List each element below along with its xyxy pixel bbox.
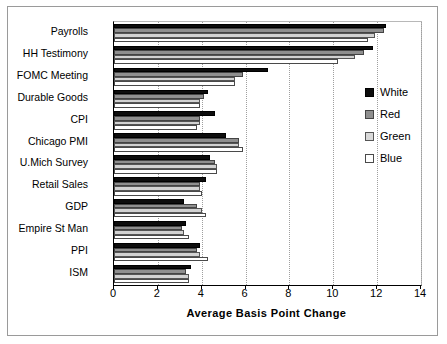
bar-group [114,199,421,217]
bar [114,191,202,196]
bar [114,213,206,218]
category-label: GDP [65,201,88,212]
bar [114,125,197,130]
legend-item: Green [365,125,435,147]
chart-legend: WhiteRedGreenBlue [365,81,435,169]
bar [114,81,235,86]
bar-group [114,243,421,261]
category-label: Empire St Man [19,223,88,234]
bar-group [114,177,421,195]
bar [114,279,189,284]
legend-label: White [380,86,408,98]
bar [114,169,217,174]
chart-frame: PayrollsHH TestimonyFOMC MeetingDurable … [7,6,438,336]
legend-item: White [365,81,435,103]
bar-group [114,265,421,283]
tick-label: 10 [317,288,347,299]
tick-label: 0 [98,288,128,299]
bar-group [114,221,421,239]
bar-group [114,46,421,64]
bar [114,59,338,64]
tick-label: 6 [230,288,260,299]
category-label: PPI [71,245,88,256]
tick-label: 14 [405,288,435,299]
legend-label: Blue [380,152,402,164]
legend-item: Red [365,103,435,125]
legend-swatch-icon [365,154,374,163]
bar [114,38,368,43]
tick-label: 2 [142,288,172,299]
bar [114,103,200,108]
bar [114,235,189,240]
category-label: CPI [70,114,88,125]
category-label: FOMC Meeting [17,70,88,81]
legend-label: Red [380,108,400,120]
category-label: Retail Sales [32,179,88,190]
legend-label: Green [380,130,411,142]
tick-label: 4 [186,288,216,299]
category-label: HH Testimony [23,48,88,59]
legend-swatch-icon [365,110,374,119]
category-label: Durable Goods [17,92,88,103]
category-label: Chicago PMI [28,136,88,147]
category-label: ISM [69,267,88,278]
legend-swatch-icon [365,88,374,97]
legend-swatch-icon [365,132,374,141]
category-label: U.Mich Survey [20,157,88,168]
tick-label: 12 [361,288,391,299]
bar [114,147,243,152]
legend-item: Blue [365,147,435,169]
x-axis-title: Average Basis Point Change [113,307,420,319]
tick-label: 8 [273,288,303,299]
category-label: Payrolls [51,26,88,37]
bar [114,257,208,262]
bar-group [114,24,421,42]
